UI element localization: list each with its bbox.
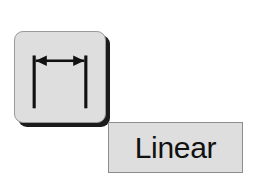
- linear-dimension-tool-button[interactable]: [14, 31, 106, 123]
- screen-canvas: Linear: [0, 0, 261, 188]
- tool-tooltip: Linear: [108, 122, 243, 173]
- linear-dimension-icon-svg: [15, 32, 105, 122]
- linear-dimension-icon: [15, 32, 105, 122]
- tool-tooltip-label: Linear: [135, 133, 217, 163]
